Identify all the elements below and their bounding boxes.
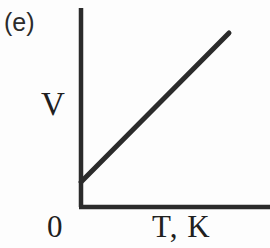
figure-panel-e: (e) V 0 T, K bbox=[0, 0, 270, 248]
plot-area bbox=[0, 0, 270, 248]
origin-label: 0 bbox=[47, 211, 63, 242]
x-axis-label: T, K bbox=[152, 211, 211, 242]
y-axis-label: V bbox=[41, 88, 65, 121]
panel-label: (e) bbox=[4, 10, 35, 35]
data-line-v-vs-t bbox=[81, 33, 229, 182]
